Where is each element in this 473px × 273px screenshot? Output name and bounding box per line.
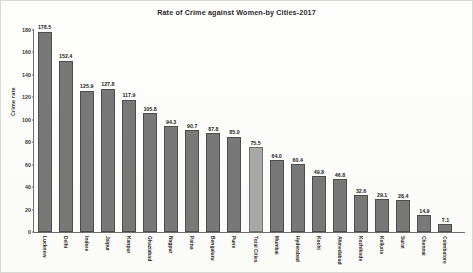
x-tick-label-jaipur: Jaipur <box>105 236 110 251</box>
bar-jaipur[interactable] <box>101 89 115 232</box>
x-tick-label-indore: Indore <box>84 236 89 251</box>
bar-value-label: 60.4 <box>293 157 303 163</box>
bar-column: 152.4 <box>59 30 73 232</box>
bar-column: 127.8 <box>101 30 115 232</box>
bar-value-label: 14.9 <box>419 208 429 214</box>
x-axis-line <box>33 232 465 233</box>
x-tick-label-surat: Surat <box>400 236 405 249</box>
bar-column: 29.1 <box>375 30 389 232</box>
y-tick-mark-180 <box>32 30 35 31</box>
bar-mumbai[interactable] <box>270 160 284 232</box>
bar-value-label: 90.7 <box>187 123 197 129</box>
bar-column: 75.5 <box>249 30 263 232</box>
bar-value-label: 64.0 <box>271 153 281 159</box>
bar-value-label: 32.6 <box>356 188 366 194</box>
bar-value-label: 46.8 <box>335 172 345 178</box>
bar-column: 46.8 <box>333 30 347 232</box>
y-tick-mark-0 <box>32 232 35 233</box>
bar-value-label: 75.5 <box>250 140 260 146</box>
bar-kozhikode[interactable] <box>354 195 368 232</box>
chart-title: Rate of Crime against Women-by Cities-20… <box>0 8 473 17</box>
bar-value-label: 105.8 <box>143 106 156 112</box>
x-tick-label-lucknow: Lucknow <box>42 236 47 258</box>
bar-kolkata[interactable] <box>375 199 389 232</box>
bar-column: 90.7 <box>185 30 199 232</box>
bar-column: 7.1 <box>438 30 452 232</box>
y-tick-mark-20 <box>32 209 35 210</box>
bar-coimbatore[interactable] <box>438 224 452 232</box>
bar-column: 64.0 <box>270 30 284 232</box>
bar-bengaluru[interactable] <box>206 133 220 232</box>
y-tick-mark-140 <box>32 74 35 75</box>
x-tick-label-kochi: Kochi <box>316 236 321 250</box>
x-tick-label-kozhikode: Kozhikode <box>358 236 363 261</box>
x-tick-label-kolkata: Kolkata <box>379 236 384 254</box>
bar-surat[interactable] <box>396 200 410 232</box>
plot-area: 020406080100120140160180 178.5152.4125.9… <box>34 30 464 232</box>
bar-nagpur[interactable] <box>164 126 178 232</box>
bar-chennai[interactable] <box>417 215 431 232</box>
bar-ghaziabad[interactable] <box>143 113 157 232</box>
x-tick-label-ahmedabad: Ahmedabad <box>337 236 342 264</box>
y-tick-mark-60 <box>32 164 35 165</box>
x-tick-label-ghaziabad: Ghaziabad <box>147 236 152 261</box>
bar-value-label: 94.3 <box>166 119 176 125</box>
bar-hyderabad[interactable] <box>291 164 305 232</box>
x-tick-label-patna: Patna <box>189 236 194 250</box>
bar-column: 105.8 <box>143 30 157 232</box>
y-tick-mark-160 <box>32 52 35 53</box>
y-tick-mark-100 <box>32 119 35 120</box>
bar-value-label: 7.1 <box>442 217 449 223</box>
y-axis-label: Crime rate <box>10 87 16 116</box>
bar-value-label: 125.9 <box>80 83 93 89</box>
x-tick-label-delhi: Delhi <box>63 236 68 248</box>
bar-column: 14.9 <box>417 30 431 232</box>
x-tick-label-kanpur: Kanpur <box>126 236 131 253</box>
bar-column: 117.9 <box>122 30 136 232</box>
bar-patna[interactable] <box>185 130 199 232</box>
bar-value-label: 29.1 <box>377 192 387 198</box>
bar-column: 85.0 <box>227 30 241 232</box>
y-tick-mark-80 <box>32 142 35 143</box>
bar-column: 87.8 <box>206 30 220 232</box>
y-tick-mark-120 <box>32 97 35 98</box>
x-tick-label-pune: Pune <box>231 236 236 248</box>
bar-total-cities[interactable] <box>249 147 263 232</box>
bar-value-label: 152.4 <box>59 53 72 59</box>
bar-value-label: 49.8 <box>314 169 324 175</box>
bar-indore[interactable] <box>80 91 94 232</box>
x-tick-label-mumbai: Mumbai <box>274 236 279 255</box>
x-tick-label-coimbatore: Coimbatore <box>442 236 447 264</box>
y-tick-mark-40 <box>32 187 35 188</box>
bar-ahmedabad[interactable] <box>333 179 347 232</box>
bar-column: 125.9 <box>80 30 94 232</box>
bar-delhi[interactable] <box>59 61 73 232</box>
bar-column: 32.6 <box>354 30 368 232</box>
bar-value-label: 178.5 <box>38 24 51 30</box>
bar-pune[interactable] <box>227 137 241 232</box>
bar-value-label: 28.4 <box>398 193 408 199</box>
x-tick-label-chennai: Chennai <box>421 236 426 256</box>
bar-value-label: 85.0 <box>229 129 239 135</box>
bar-column: 94.3 <box>164 30 178 232</box>
x-tick-label-hyderabad: Hyderabad <box>295 236 300 262</box>
bar-value-label: 87.8 <box>208 126 218 132</box>
bar-kanpur[interactable] <box>122 100 136 232</box>
x-tick-label-total-cities: Total Cities <box>253 236 258 263</box>
bar-column: 49.8 <box>312 30 326 232</box>
bar-value-label: 117.9 <box>122 92 135 98</box>
bar-kochi[interactable] <box>312 176 326 232</box>
bar-column: 28.4 <box>396 30 410 232</box>
bar-column: 60.4 <box>291 30 305 232</box>
bar-lucknow[interactable] <box>38 32 52 232</box>
bar-column: 178.5 <box>38 30 52 232</box>
x-tick-label-nagpur: Nagpur <box>168 236 173 253</box>
x-tick-label-bengaluru: Bengaluru <box>210 236 215 261</box>
bar-value-label: 127.8 <box>101 81 114 87</box>
